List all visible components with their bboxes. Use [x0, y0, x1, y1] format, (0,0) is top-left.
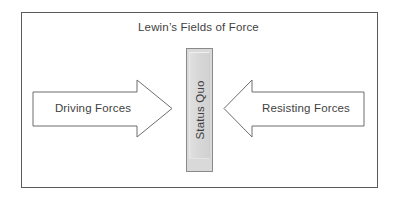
status-quo-label: Status Quo	[194, 80, 206, 139]
resisting-forces-label: Resisting Forces	[247, 102, 365, 114]
lewin-force-field-diagram: Lewin’s Fields of Force Driving Forces R…	[0, 0, 397, 201]
driving-forces-label: Driving Forces	[34, 102, 152, 114]
status-quo-bar: Status Quo	[186, 48, 213, 172]
